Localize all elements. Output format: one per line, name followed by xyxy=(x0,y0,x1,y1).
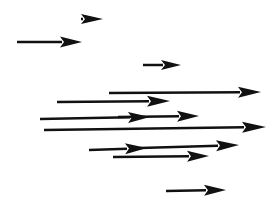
arrow-shaft xyxy=(57,101,149,102)
arrow-shaft xyxy=(89,149,127,150)
arrow-shaft xyxy=(113,156,189,157)
arrow-shaft xyxy=(40,117,130,119)
diagram-background xyxy=(0,0,280,211)
arrow-shaft xyxy=(118,116,179,117)
arrow-diagram xyxy=(0,0,280,211)
arrow-shaft xyxy=(109,92,240,93)
arrow-shaft xyxy=(166,190,206,191)
